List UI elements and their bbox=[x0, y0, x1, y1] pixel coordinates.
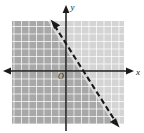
y-axis-label: y bbox=[70, 2, 75, 12]
x-axis-right-arrow-icon bbox=[126, 68, 134, 75]
origin-label: O bbox=[58, 72, 64, 81]
x-axis-left-arrow-icon bbox=[3, 68, 11, 75]
x-axis-label: x bbox=[135, 67, 140, 77]
y-axis-top-arrow-icon bbox=[63, 5, 70, 13]
figure-canvas: y x O bbox=[0, 0, 144, 133]
coordinate-plane-graph: y x O bbox=[0, 0, 144, 133]
